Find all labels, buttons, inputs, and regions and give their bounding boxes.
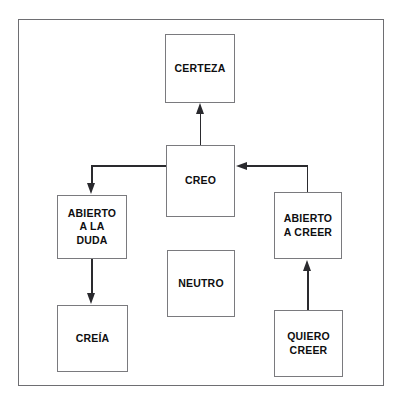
edge-creer-to-creo-shaft-horizontal xyxy=(247,165,307,167)
edge-quiero-to-creer-shaft xyxy=(307,271,309,310)
node-creo[interactable]: CREO xyxy=(166,145,235,217)
edge-duda-to-creia-shaft xyxy=(91,259,93,294)
node-abierto-a-la-duda[interactable]: ABIERTO A LA DUDA xyxy=(57,195,127,259)
node-creia-label: CREÍA xyxy=(74,332,112,346)
edge-creer-to-creo-arrowhead xyxy=(236,162,247,170)
node-neutro[interactable]: NEUTRO xyxy=(167,250,235,317)
node-quiero-creer[interactable]: QUIERO CREER xyxy=(274,310,343,377)
node-creia[interactable]: CREÍA xyxy=(57,305,128,372)
node-creo-label: CREO xyxy=(183,174,218,188)
node-abierto-a-creer[interactable]: ABIERTO A CREER xyxy=(274,192,342,259)
edge-creo-to-duda-shaft-horizontal xyxy=(91,165,166,167)
node-certeza[interactable]: CERTEZA xyxy=(165,34,235,103)
edge-creo-to-certeza-shaft xyxy=(200,114,202,145)
node-quiero-creer-label: QUIERO CREER xyxy=(285,330,332,357)
node-abierto-a-la-duda-label: ABIERTO A LA DUDA xyxy=(66,207,118,248)
node-certeza-label: CERTEZA xyxy=(173,62,228,76)
node-abierto-a-creer-label: ABIERTO A CREER xyxy=(282,212,334,239)
edge-creo-to-certeza-arrowhead xyxy=(196,103,204,114)
edge-creer-to-creo-shaft-vertical xyxy=(307,165,309,192)
edge-creo-to-duda-shaft-vertical xyxy=(91,165,93,183)
edge-creo-to-duda-arrowhead xyxy=(87,183,95,194)
diagram-canvas: CERTEZA CREO ABIERTO A LA DUDA CREÍA NEU… xyxy=(0,0,402,404)
node-neutro-label: NEUTRO xyxy=(176,277,226,291)
edge-quiero-to-creer-arrowhead xyxy=(303,260,311,271)
edge-duda-to-creia-arrowhead xyxy=(87,293,95,304)
